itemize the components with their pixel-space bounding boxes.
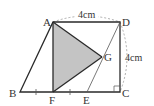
geometry-figure: A D G B C F E 4cm 4cm: [0, 0, 154, 106]
label-g: G: [104, 51, 112, 63]
label-e: E: [83, 94, 90, 106]
shaded-triangle-afg: [53, 22, 102, 92]
label-f: F: [49, 94, 55, 106]
label-a: A: [43, 16, 51, 28]
label-c: C: [122, 87, 129, 99]
label-b: B: [9, 87, 16, 99]
dimension-label-dc: 4cm: [125, 52, 142, 63]
label-d: D: [122, 16, 130, 28]
dimension-label-ad: 4cm: [78, 9, 95, 20]
right-angle-mark-c: [114, 86, 120, 92]
